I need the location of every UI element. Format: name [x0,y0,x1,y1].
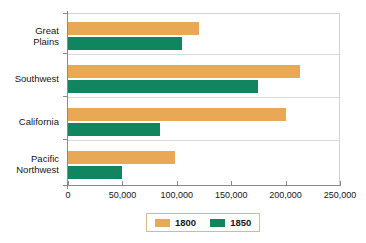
gridline [68,54,339,55]
bar-great-plains-1800 [68,22,199,35]
bar-california-1850 [68,123,160,136]
x-axis-tick [68,181,69,186]
x-axis-tick [122,181,123,186]
x-axis-line [68,185,341,186]
category-label-line: Southwest [0,73,59,84]
category-label-southwest: Southwest [0,73,59,84]
bar-chart: Great Plains Southwest California Pacifi… [0,0,366,243]
y-axis-tick [63,13,68,14]
legend: 1800 1850 [146,213,260,232]
legend-label: 1850 [230,218,251,228]
bar-great-plains-1850 [68,37,182,50]
y-axis-line [67,11,68,189]
category-label-line: Great [0,25,59,36]
legend-label: 1800 [175,218,196,228]
x-axis-tick-label: 200,000 [269,190,302,200]
x-axis-tick-label: 0 [65,190,70,200]
y-axis-tick [63,139,68,140]
x-axis-tick-label: 100,000 [161,190,194,200]
gridline [68,140,339,141]
y-axis-tick [63,53,68,54]
legend-swatch-icon [210,219,225,227]
x-axis-tick [286,181,287,186]
legend-swatch-icon [155,219,170,227]
category-axis-labels: Great Plains Southwest California Pacifi… [0,13,63,185]
plot-area [68,13,340,185]
x-axis-tick-label: 250,000 [324,190,357,200]
category-label-pacific-northwest: Pacific Northwest [0,153,59,175]
category-label-line: Northwest [0,164,59,175]
x-axis-tick [177,181,178,186]
bar-southwest-1850 [68,80,258,93]
category-label-line: California [0,116,59,127]
legend-item-1850[interactable]: 1850 [210,218,251,228]
category-label-great-plains: Great Plains [0,25,59,47]
x-axis-tick [231,181,232,186]
bar-southwest-1800 [68,65,300,78]
gridline [68,97,339,98]
category-label-line: Plains [0,36,59,47]
y-axis-tick [63,96,68,97]
bar-pacific-northwest-1850 [68,166,122,179]
category-label-california: California [0,116,59,127]
bar-pacific-northwest-1800 [68,151,175,164]
x-axis-tick-label: 50,000 [109,190,137,200]
x-axis-tick [340,181,341,186]
x-axis-tick-label: 150,000 [215,190,248,200]
legend-item-1800[interactable]: 1800 [155,218,196,228]
category-label-line: Pacific [0,153,59,164]
bar-california-1800 [68,108,286,121]
